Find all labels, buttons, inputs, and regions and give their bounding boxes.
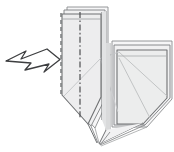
spine-fill-band bbox=[102, 11, 106, 130]
origami-illustration: Origami fold step diagram Paper model sh… bbox=[0, 0, 174, 152]
origami-diagram: Origami fold step diagram Paper model sh… bbox=[0, 0, 174, 152]
spine-fill-band-2 bbox=[106, 43, 110, 132]
